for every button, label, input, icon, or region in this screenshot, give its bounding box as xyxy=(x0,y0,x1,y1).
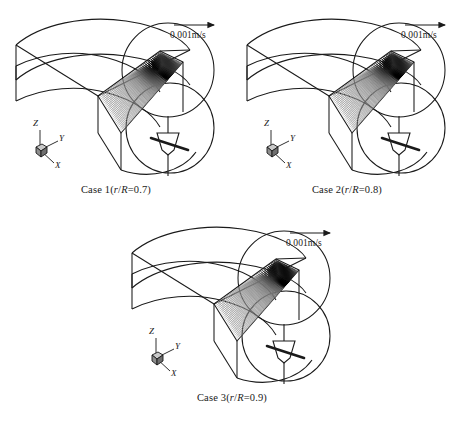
axis-triad xyxy=(36,130,58,163)
axis-label-z: Z xyxy=(264,118,269,128)
axis-label-z: Z xyxy=(33,118,38,128)
panel-case-3: Z Y X 0.001m/s Case 3(r/R=0.9) xyxy=(116,208,348,423)
panel-1-caption: Case 1(r/R=0.7) xyxy=(0,183,232,196)
figure-root: Z Y X 0.001m/s Case 1(r/R=0.7) xyxy=(0,0,463,430)
impeller-icon xyxy=(267,324,304,384)
axis-label-x: X xyxy=(286,160,292,170)
caption-R: R xyxy=(352,184,359,195)
caption-R: R xyxy=(121,184,128,195)
panel-2-caption: Case 2(r/R=0.8) xyxy=(231,183,463,196)
axis-triad xyxy=(152,338,174,371)
impeller-icon xyxy=(382,116,419,176)
axis-label-y: Y xyxy=(175,341,180,351)
scale-bar-label: 0.001m/s xyxy=(401,30,437,41)
scale-bar-label: 0.001m/s xyxy=(170,30,206,41)
caption-R: R xyxy=(237,392,244,403)
caption-prefix: Case 2( xyxy=(312,184,345,195)
axis-label-y: Y xyxy=(290,133,295,143)
axis-label-x: X xyxy=(171,368,177,378)
panel-case-2: Z Y X 0.001m/s Case 2(r/R=0.8) xyxy=(231,0,463,215)
caption-suffix: =0.8) xyxy=(359,184,382,195)
axis-label-z: Z xyxy=(149,326,154,336)
axis-label-x: X xyxy=(55,160,61,170)
caption-prefix: Case 3( xyxy=(197,392,230,403)
scale-bar-label: 0.001m/s xyxy=(286,238,322,249)
panel-3-caption: Case 3(r/R=0.9) xyxy=(116,391,348,404)
axis-triad xyxy=(267,130,289,163)
caption-prefix: Case 1( xyxy=(81,184,114,195)
impeller-icon xyxy=(151,116,188,176)
caption-suffix: =0.9) xyxy=(244,392,267,403)
panel-case-1: Z Y X 0.001m/s Case 1(r/R=0.7) xyxy=(0,0,232,215)
axis-label-y: Y xyxy=(59,133,64,143)
caption-suffix: =0.7) xyxy=(128,184,151,195)
